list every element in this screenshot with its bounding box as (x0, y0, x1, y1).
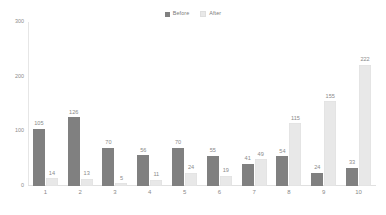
bar-group: 54115 (272, 22, 307, 186)
bar-column: 14 (46, 22, 58, 186)
bar-value-label: 11 (153, 172, 159, 178)
bar-value-label: 126 (69, 110, 78, 116)
x-axis-tick-label: 2 (63, 189, 98, 195)
bar-value-label: 49 (258, 152, 264, 158)
bar-before[interactable] (242, 164, 254, 186)
x-axis-tick-label: 7 (237, 189, 272, 195)
legend-item-before[interactable]: Before (165, 11, 189, 16)
bar-group: 12613 (63, 22, 98, 186)
x-axis-tick-label: 10 (341, 189, 376, 195)
y-axis-tick-label: 200 (15, 74, 24, 79)
bar-after[interactable] (289, 123, 301, 186)
bar-before[interactable] (33, 129, 45, 186)
x-axis-tick-label: 6 (202, 189, 237, 195)
bar-value-label: 13 (84, 171, 90, 177)
chart-legend: Before After (0, 11, 386, 17)
bar-value-label: 14 (49, 171, 55, 177)
bar-column: 19 (220, 22, 232, 186)
bar-value-label: 33 (349, 160, 355, 166)
x-axis-tick-label: 5 (167, 189, 202, 195)
y-axis-tick-label: 100 (15, 129, 24, 134)
bar-column: 5 (115, 22, 127, 186)
bar-column: 11 (150, 22, 162, 186)
bar-after[interactable] (359, 65, 371, 186)
x-axis-labels: 12345678910 (28, 189, 376, 195)
bar-before[interactable] (346, 168, 358, 186)
bar-column: 126 (68, 22, 80, 186)
bar-value-label: 70 (105, 140, 111, 146)
bar-before[interactable] (68, 117, 80, 186)
bar-column: 41 (242, 22, 254, 186)
bar-value-label: 105 (34, 121, 43, 127)
bar-value-label: 222 (360, 57, 369, 63)
bar-after[interactable] (185, 173, 197, 186)
bar-value-label: 54 (279, 149, 285, 155)
bar-value-label: 41 (245, 156, 251, 162)
bar-value-label: 155 (326, 94, 335, 100)
bar-column: 55 (207, 22, 219, 186)
bar-column: 155 (324, 22, 336, 186)
bar-column: 54 (276, 22, 288, 186)
bar-value-label: 70 (175, 140, 181, 146)
bar-before[interactable] (137, 155, 149, 186)
bar-value-label: 24 (188, 165, 194, 171)
bar-after[interactable] (220, 176, 232, 186)
x-axis-tick-label: 1 (28, 189, 63, 195)
bar-column: 105 (33, 22, 45, 186)
bar-column: 13 (81, 22, 93, 186)
bar-after[interactable] (115, 183, 127, 186)
bar-group: 4149 (237, 22, 272, 186)
bar-before[interactable] (311, 173, 323, 186)
bar-value-label: 56 (140, 148, 146, 154)
bar-column: 70 (172, 22, 184, 186)
bar-column: 33 (346, 22, 358, 186)
bar-group: 5611 (132, 22, 167, 186)
x-axis-tick-label: 9 (306, 189, 341, 195)
bar-after[interactable] (255, 159, 267, 186)
legend-swatch-before-icon (165, 12, 170, 17)
bar-column: 24 (185, 22, 197, 186)
bar-group: 24155 (306, 22, 341, 186)
bar-group: 5519 (202, 22, 237, 186)
bar-column: 222 (359, 22, 371, 186)
x-axis-tick-label: 4 (132, 189, 167, 195)
bar-after[interactable] (324, 101, 336, 186)
y-axis-tick-label: 0 (21, 183, 24, 188)
bar-before[interactable] (276, 156, 288, 186)
legend-item-after[interactable]: After (200, 11, 221, 17)
bar-value-label: 5 (120, 176, 123, 182)
x-axis-tick-label: 8 (272, 189, 307, 195)
bar-column: 70 (102, 22, 114, 186)
bar-group: 10514 (28, 22, 63, 186)
bar-value-label: 55 (210, 148, 216, 154)
bar-after[interactable] (81, 179, 93, 186)
x-axis-tick-label: 3 (98, 189, 133, 195)
bar-column: 115 (289, 22, 301, 186)
y-axis-tick-label: 300 (15, 19, 24, 24)
legend-label-before: Before (173, 11, 189, 16)
bar-group: 7024 (167, 22, 202, 186)
legend-swatch-after-icon (200, 11, 206, 17)
bar-after[interactable] (46, 178, 58, 186)
bar-value-label: 115 (291, 116, 300, 122)
bar-before[interactable] (207, 156, 219, 186)
bar-after[interactable] (150, 180, 162, 186)
bar-group: 33222 (341, 22, 376, 186)
bar-column: 56 (137, 22, 149, 186)
legend-label-after: After (209, 11, 221, 16)
plot-area: 0100200300 10514126137055611702455194149… (28, 22, 376, 186)
bar-column: 49 (255, 22, 267, 186)
bar-groups: 1051412613705561170245519414954115241553… (28, 22, 376, 186)
bar-chart: Before After 0100200300 1051412613705561… (0, 0, 386, 215)
bar-column: 24 (311, 22, 323, 186)
bar-before[interactable] (102, 148, 114, 186)
bar-before[interactable] (172, 148, 184, 186)
bar-value-label: 19 (223, 168, 229, 174)
bar-value-label: 24 (314, 165, 320, 171)
bar-group: 705 (98, 22, 133, 186)
